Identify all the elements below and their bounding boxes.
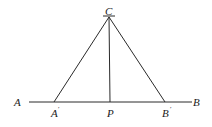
label-A: A [13,96,21,108]
label-B: B [193,96,200,108]
label-B-prime: B [162,107,169,119]
label-P: P [106,107,114,119]
geometry-diagram: C A B A ′ P B ′ [0,0,212,127]
label-A-prime-mark: ′ [58,105,60,113]
segment-CP [109,17,110,102]
segment-CA-prime [54,17,109,102]
label-C: C [105,5,113,17]
label-B-prime-mark: ′ [170,105,172,113]
segment-CB-prime [109,17,165,102]
label-A-prime: A [50,107,58,119]
